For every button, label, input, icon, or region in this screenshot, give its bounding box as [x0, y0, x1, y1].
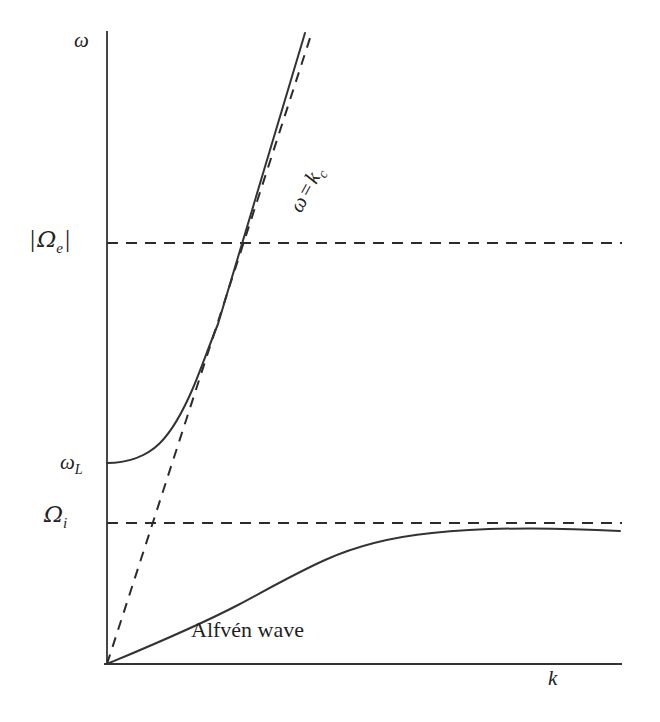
upper-branch-curve [107, 33, 305, 463]
plot-canvas [0, 0, 660, 722]
x-axis-label-text: k [548, 666, 557, 690]
ion-gyrofrequency-label: Ωi [44, 503, 67, 530]
y-axis-label: ω [74, 30, 89, 51]
lower-hybrid-frequency-label: ωL [60, 452, 83, 476]
omega-i-subscript: i [63, 514, 67, 531]
omega-e-symbol: Ω [37, 226, 56, 252]
abs-bar-close: | [63, 224, 72, 253]
electron-gyrofrequency-label: |Ωe| [28, 226, 72, 255]
omega-L-subscript: L [75, 461, 83, 477]
omega-L-symbol: ω [60, 450, 75, 474]
omega-i-symbol: Ω [44, 501, 63, 527]
dispersion-relation-figure: ω k |Ωe| Ωi ωL ω=kc Alfvén wave [0, 0, 660, 722]
abs-bar-open: | [28, 224, 37, 253]
x-axis-label: k [548, 668, 557, 689]
alfven-wave-label: Alfvén wave [191, 617, 304, 643]
alfven-wave-curve [107, 529, 620, 664]
y-axis-label-text: ω [74, 28, 89, 52]
